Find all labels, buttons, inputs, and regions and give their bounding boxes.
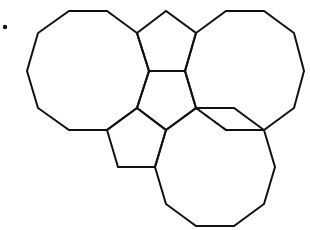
bullet-dot — [3, 25, 7, 29]
decagon-right — [185, 11, 304, 130]
tiling-diagram — [0, 0, 310, 230]
polygon-group — [27, 11, 304, 226]
pentagon-center — [137, 71, 196, 130]
pentagon-lower — [107, 108, 166, 167]
pentagon-top — [137, 11, 196, 71]
dashed-hidden-edge — [196, 108, 264, 130]
